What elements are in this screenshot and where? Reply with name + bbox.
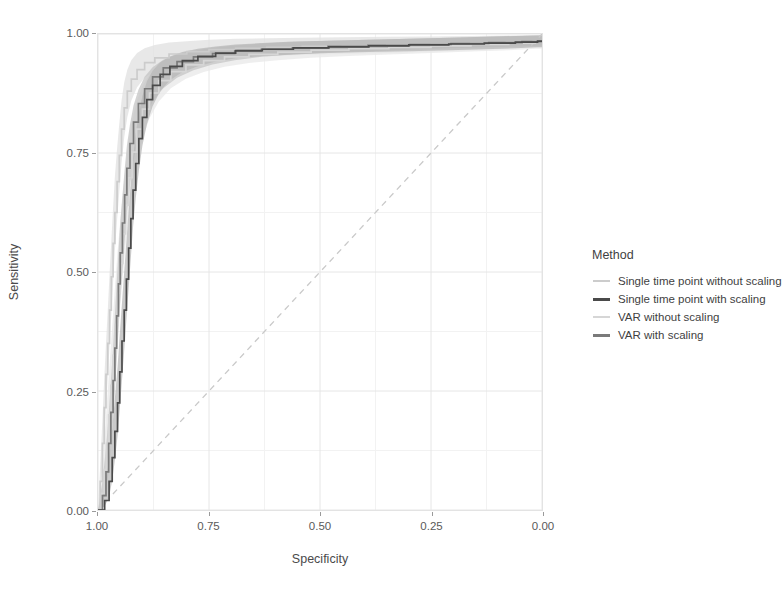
plot-panel <box>97 33 543 511</box>
legend-item[interactable]: Single time point without scaling <box>592 273 770 289</box>
x-tick-mark <box>209 512 210 516</box>
legend-label: Single time point without scaling <box>618 275 782 287</box>
legend-item[interactable]: VAR without scaling <box>592 309 770 325</box>
plot-canvas <box>98 34 542 510</box>
legend-label: VAR without scaling <box>618 311 719 323</box>
legend-title: Method <box>592 248 770 262</box>
y-tick-label: 0.00 <box>43 505 89 517</box>
x-tick-mark <box>97 512 98 516</box>
y-tick-mark <box>92 153 96 154</box>
legend-line-icon <box>592 330 611 340</box>
legend-line-icon <box>592 276 611 286</box>
legend-items: Single time point without scalingSingle … <box>592 273 770 343</box>
y-tick-mark <box>92 272 96 273</box>
legend: Method Single time point without scaling… <box>592 248 770 345</box>
y-tick-label: 0.50 <box>43 266 89 278</box>
legend-item[interactable]: VAR with scaling <box>592 327 770 343</box>
y-tick-mark <box>92 511 96 512</box>
x-tick-label: 0.25 <box>402 520 462 532</box>
x-axis-title: Specificity <box>292 552 348 566</box>
legend-item[interactable]: Single time point with scaling <box>592 291 770 307</box>
y-axis-title: Sensitivity <box>7 244 21 300</box>
x-tick-label: 0.00 <box>513 520 573 532</box>
x-tick-mark <box>543 512 544 516</box>
y-tick-label: 0.75 <box>43 147 89 159</box>
x-tick-label: 0.50 <box>290 520 350 532</box>
x-tick-mark <box>320 512 321 516</box>
y-tick-mark <box>92 392 96 393</box>
legend-line-icon <box>592 312 611 322</box>
y-tick-mark <box>92 33 96 34</box>
legend-line-icon <box>592 294 611 304</box>
legend-label: Single time point with scaling <box>618 293 766 305</box>
legend-label: VAR with scaling <box>618 329 703 341</box>
y-tick-label: 1.00 <box>43 27 89 39</box>
x-tick-mark <box>432 512 433 516</box>
x-tick-label: 0.75 <box>179 520 239 532</box>
y-tick-label: 0.25 <box>43 386 89 398</box>
x-tick-label: 1.00 <box>67 520 127 532</box>
